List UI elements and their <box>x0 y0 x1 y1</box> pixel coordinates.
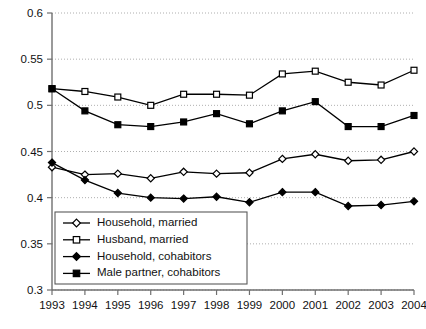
data-point-marker <box>246 92 252 98</box>
data-point-marker <box>246 121 252 127</box>
series-lines <box>48 67 417 209</box>
data-point-marker <box>148 102 154 108</box>
data-point-marker <box>114 189 121 196</box>
legend-item-label: Male partner, cohabitors <box>97 266 221 278</box>
data-point-marker <box>148 124 154 130</box>
data-point-marker <box>345 124 351 130</box>
legend-item-label: Household, married <box>97 216 197 228</box>
x-tick-label: 2003 <box>368 299 394 311</box>
data-point-marker <box>214 91 220 97</box>
legend-item-label: Husband, married <box>97 233 188 245</box>
data-point-marker <box>181 91 187 97</box>
data-point-marker <box>410 198 417 205</box>
data-point-marker <box>410 148 417 155</box>
x-axis <box>52 290 414 295</box>
chart-legend: Household, marriedHusband, marriedHouseh… <box>55 212 247 284</box>
series-1 <box>48 148 417 182</box>
data-point-marker <box>81 177 88 184</box>
data-point-marker <box>312 68 318 74</box>
legend-item-label: Household, cohabitors <box>97 250 212 262</box>
x-tick-label: 2001 <box>302 299 328 311</box>
y-axis <box>47 13 52 290</box>
x-tick-label: 1994 <box>72 299 98 311</box>
data-point-marker <box>312 189 319 196</box>
data-point-marker <box>115 122 121 128</box>
x-tick-label: 1997 <box>171 299 197 311</box>
data-point-marker <box>180 168 187 175</box>
data-point-marker <box>279 189 286 196</box>
series-2 <box>49 67 417 108</box>
x-tick-label: 1998 <box>204 299 230 311</box>
data-point-marker <box>73 270 79 276</box>
x-tick-label: 2002 <box>335 299 361 311</box>
data-point-marker <box>411 113 417 119</box>
chart-canvas: 0.30.350.40.450.50.550.6 199319941995199… <box>0 0 426 329</box>
data-point-marker <box>411 67 417 73</box>
data-point-marker <box>345 79 351 85</box>
data-point-marker <box>378 82 384 88</box>
data-point-marker <box>180 195 187 202</box>
series-polyline <box>52 70 414 105</box>
data-point-marker <box>246 199 253 206</box>
series-4 <box>49 86 417 130</box>
data-point-marker <box>114 170 121 177</box>
y-tick-label: 0.55 <box>21 53 43 65</box>
data-point-marker <box>48 159 55 166</box>
x-tick-label: 1995 <box>105 299 131 311</box>
y-tick-label: 0.45 <box>21 146 43 158</box>
data-point-marker <box>246 169 253 176</box>
data-point-marker <box>82 89 88 95</box>
data-point-marker <box>377 156 384 163</box>
data-point-marker <box>279 71 285 77</box>
data-point-marker <box>147 194 154 201</box>
y-tick-label: 0.5 <box>27 99 43 111</box>
y-tick-label: 0.4 <box>27 192 44 204</box>
data-point-marker <box>49 86 55 92</box>
series-polyline <box>52 163 414 206</box>
x-tick-label: 1996 <box>138 299 164 311</box>
data-point-marker <box>312 151 319 158</box>
x-tick-label: 2004 <box>401 299 426 311</box>
data-point-marker <box>147 175 154 182</box>
data-point-marker <box>312 99 318 105</box>
data-point-marker <box>213 170 220 177</box>
line-chart: 0.30.350.40.450.50.550.6 199319941995199… <box>0 0 426 329</box>
y-tick-label: 0.35 <box>21 238 43 250</box>
y-tick-label: 0.3 <box>27 284 43 296</box>
data-point-marker <box>279 108 285 114</box>
series-3 <box>48 159 417 210</box>
data-point-marker <box>378 124 384 130</box>
y-tick-labels: 0.30.350.40.450.50.550.6 <box>21 7 44 296</box>
data-point-marker <box>214 111 220 117</box>
data-point-marker <box>279 155 286 162</box>
x-tick-labels: 1993199419951996199719981999200020012002… <box>39 299 426 311</box>
data-point-marker <box>82 108 88 114</box>
data-point-marker <box>73 237 79 243</box>
data-point-marker <box>115 94 121 100</box>
x-tick-label: 1993 <box>39 299 65 311</box>
data-point-marker <box>181 119 187 125</box>
x-tick-label: 2000 <box>270 299 296 311</box>
data-point-marker <box>345 157 352 164</box>
y-tick-label: 0.6 <box>27 7 43 19</box>
data-point-marker <box>377 201 384 208</box>
x-tick-label: 1999 <box>237 299 263 311</box>
data-point-marker <box>213 193 220 200</box>
data-point-marker <box>345 202 352 209</box>
series-polyline <box>52 152 414 179</box>
